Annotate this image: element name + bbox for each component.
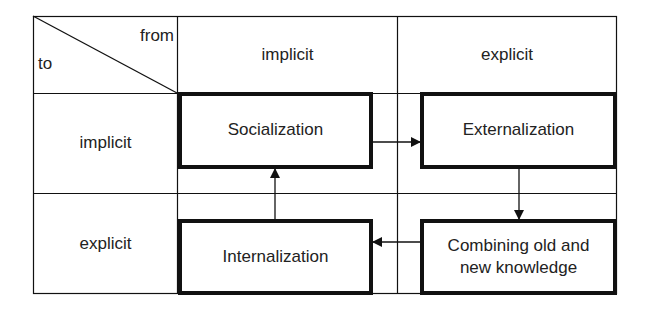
- externalization-label: Externalization: [463, 119, 575, 141]
- internalization-box: Internalization: [178, 219, 373, 295]
- socialization-box: Socialization: [178, 92, 373, 169]
- row-header-implicit: implicit: [34, 94, 177, 193]
- row-header-explicit: explicit: [34, 194, 177, 294]
- combining-label-line2: new knowledge: [460, 257, 577, 279]
- externalization-box: Externalization: [420, 92, 617, 169]
- combining-box: Combining old and new knowledge: [420, 219, 617, 295]
- column-header-implicit: implicit: [178, 17, 397, 93]
- corner-to-label: to: [38, 52, 68, 76]
- column-header-explicit: explicit: [398, 17, 616, 93]
- combining-label-line1: Combining old and: [448, 235, 590, 257]
- corner-from-label: from: [130, 24, 174, 48]
- internalization-label: Internalization: [223, 246, 329, 268]
- socialization-label: Socialization: [228, 119, 323, 141]
- knowledge-matrix-diagram: from to implicit explicit implicit expli…: [0, 0, 648, 309]
